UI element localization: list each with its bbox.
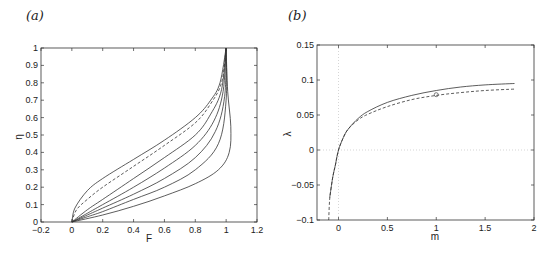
y-tick-label: 0 [309, 145, 314, 155]
series-curve2 [72, 48, 226, 222]
series-curve1 [72, 48, 226, 222]
circle-marker [434, 93, 438, 97]
y-tick-label: −0.1 [296, 215, 314, 225]
x-tick-label: 2 [531, 223, 536, 233]
x-tick-label: 1.5 [479, 223, 492, 233]
y-tick-label: 0.1 [25, 200, 38, 210]
y-tick-label: 0.9 [25, 60, 38, 70]
y-tick-label: 0.4 [25, 147, 38, 157]
y-tick-label: 0.05 [296, 110, 314, 120]
x-tick-label: 0.4 [127, 225, 140, 235]
panel-a-curves [72, 48, 231, 222]
panel-b-axes-box [317, 45, 534, 220]
y-tick-label: 0.15 [296, 40, 314, 50]
panel-b-chart: (b) 00.511.52−0.1−0.0500.050.10.15 m λ [282, 8, 537, 242]
x-tick-label: 1 [224, 225, 229, 235]
panel-b-label: (b) [288, 8, 306, 23]
y-tick-label: 1 [33, 43, 38, 53]
panel-a-xlabel: F [146, 233, 152, 244]
y-tick-label: 0.5 [25, 130, 38, 140]
panel-a-ylabel: η [13, 134, 24, 140]
panel-b-ticks: 00.511.52−0.1−0.0500.050.10.15 [291, 40, 536, 233]
y-tick-label: 0.3 [25, 165, 38, 175]
x-tick-label: 0.8 [189, 225, 202, 235]
panel-b-ylabel: λ [282, 132, 293, 137]
y-tick-label: 0.6 [25, 113, 38, 123]
y-tick-label: 0.7 [25, 95, 38, 105]
series-curve6 [72, 48, 231, 222]
y-tick-label: 0.2 [25, 182, 38, 192]
x-tick-label: 0 [69, 225, 74, 235]
series-curve5 [72, 48, 227, 222]
panel-a-chart: (a) −0.200.20.40.60.811.200.10.20.30.40.… [13, 8, 263, 244]
panel-a-label: (a) [26, 8, 44, 23]
series-dashed [329, 89, 515, 220]
y-tick-label: −0.05 [291, 180, 314, 190]
y-tick-label: 0 [33, 217, 38, 227]
panel-a-ticks: −0.200.20.40.60.811.200.10.20.30.40.50.6… [25, 43, 263, 235]
series-curve4 [72, 48, 226, 222]
panel-b-xlabel: m [431, 231, 439, 242]
panel-b-curves [329, 84, 515, 221]
figure: (a) −0.200.20.40.60.811.200.10.20.30.40.… [0, 0, 557, 254]
x-tick-label: 1.2 [251, 225, 264, 235]
x-tick-label: 0.6 [158, 225, 171, 235]
series-dashed [72, 48, 226, 222]
series-solid [330, 84, 515, 198]
series-curve3 [72, 48, 226, 222]
x-tick-label: 0.2 [96, 225, 109, 235]
x-tick-label: 0.5 [381, 223, 394, 233]
y-tick-label: 0.1 [301, 75, 314, 85]
y-tick-label: 0.8 [25, 78, 38, 88]
x-tick-label: 0 [336, 223, 341, 233]
